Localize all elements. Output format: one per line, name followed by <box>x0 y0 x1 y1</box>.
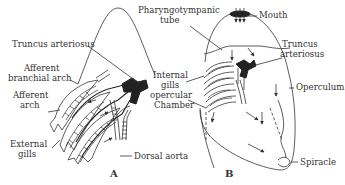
gill-diagram: Truncus arteriosus Afferent branchial ar… <box>0 0 345 185</box>
internal-gills-drawing <box>204 62 236 112</box>
label-truncus-arteriosus-a: Truncus arteriosus <box>12 39 95 49</box>
label-afferent-branchial-arch-line1: Afferent <box>23 63 60 73</box>
label-internal-gills-line1: Internal <box>153 70 188 80</box>
label-afferent-branchial-arch-line2: branchial arch <box>8 73 72 83</box>
label-external-gills-line2: gills <box>18 149 36 159</box>
label-spiracle: Spiracle <box>300 157 336 167</box>
label-afferent-arch-line2: arch <box>20 100 40 110</box>
label-afferent-arch-line1: Afferent <box>12 90 49 100</box>
label-operculum: Operculum <box>296 82 345 92</box>
label-truncus-arteriosus-b-line1: Truncus <box>282 39 318 49</box>
label-opercular-chamber-line2: Chamber <box>154 100 195 110</box>
panel-letter-a: A <box>109 168 118 179</box>
label-external-gills-line1: External <box>10 139 47 149</box>
label-opercular-chamber-line1: opercular <box>150 90 193 100</box>
panel-letter-b: B <box>225 168 233 179</box>
label-mouth: Mouth <box>259 10 288 20</box>
panel-b-drawing <box>200 8 295 170</box>
label-dorsal-aorta: Dorsal aorta <box>134 151 188 161</box>
label-internal-gills-line2: gills <box>161 80 179 90</box>
label-pharyngotympanic-tube-line1: Pharyngotympanic <box>138 5 220 15</box>
label-truncus-arteriosus-b-line2: arteriosus <box>280 49 324 59</box>
panel-a-drawing <box>50 8 155 164</box>
label-pharyngotympanic-tube-line2: tube <box>160 15 180 25</box>
external-gills-drawing <box>50 46 148 164</box>
